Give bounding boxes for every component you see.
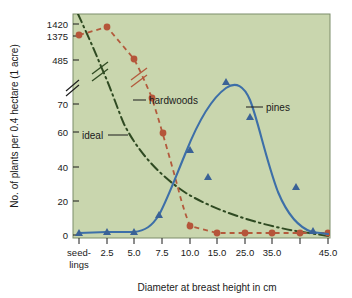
- x-tick-label-seedlings-2: lings: [69, 259, 89, 270]
- x-tick-label-seedlings-1: seed-: [67, 247, 91, 258]
- x-tick-label: 35.0: [263, 247, 282, 258]
- x-tick-label: 7.5: [155, 247, 168, 258]
- y-tick-label: 20: [57, 196, 68, 207]
- x-tick-label: 25.0: [236, 247, 255, 258]
- hardwoods-label: hardwoods: [149, 95, 198, 106]
- plot-area-background: [73, 14, 330, 238]
- chart-svg: 1420 1375 485 70 60 40 20: [0, 0, 352, 298]
- x-tick-label: 2.5: [100, 247, 113, 258]
- ideal-label: ideal: [82, 130, 103, 141]
- y-axis-title: No. of plants per 0.4 hectare (1 acre): [9, 44, 20, 207]
- y-tick-label: 0: [63, 230, 68, 241]
- figure: 1420 1375 485 70 60 40 20: [0, 0, 352, 298]
- x-axis-title: Diameter at breast height in cm: [138, 282, 277, 293]
- y-tick-label: 1420: [47, 19, 68, 30]
- x-tick-label: 15.0: [208, 247, 227, 258]
- y-tick-label: 485: [52, 55, 68, 66]
- x-tick-label: 45.0: [319, 247, 338, 258]
- y-tick-label: 70: [57, 99, 68, 110]
- x-tick-label: 10.0: [181, 247, 200, 258]
- pines-label: pines: [266, 102, 290, 113]
- y-tick-label: 1375: [47, 31, 68, 42]
- y-tick-label: 60: [57, 127, 68, 138]
- y-tick-label: 40: [57, 162, 68, 173]
- x-tick-label: 5.0: [127, 247, 140, 258]
